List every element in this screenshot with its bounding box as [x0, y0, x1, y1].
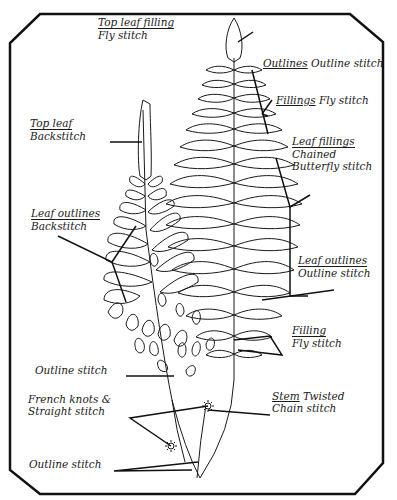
right-fern-top-leaf — [226, 18, 242, 62]
label-stitch: Fly stitch — [319, 94, 369, 106]
label-outline-stitch-bottom: Outline stitch — [29, 458, 101, 470]
label-stitch: Outline stitch — [29, 458, 101, 470]
label-title: Leaf outlines — [31, 207, 100, 219]
label-title: Stem — [272, 390, 300, 402]
label-stitch-line1: Chained — [292, 148, 336, 160]
label-title: Leaf outlines — [298, 254, 367, 266]
label-top-leaf: Top leaf Backstitch — [30, 117, 86, 142]
label-stitch-line1: Twisted — [303, 390, 345, 402]
label-stitch: Outline stitch — [35, 364, 107, 376]
label-line2: Straight stitch — [28, 405, 105, 417]
label-stitch: Backstitch — [30, 130, 86, 142]
left-fern-leaves — [104, 176, 215, 376]
label-stitch: Fly stitch — [292, 337, 342, 349]
label-fillings: Fillings Fly stitch — [276, 94, 369, 106]
label-line1: French knots & — [28, 393, 111, 405]
french-knot-icons — [165, 400, 214, 452]
label-leaf-outlines-right: Leaf outlines Outline stitch — [298, 254, 370, 279]
label-top-leaf-filling: Top leaf filling Fly stitch — [98, 16, 174, 41]
label-french-knots: French knots & Straight stitch — [28, 393, 111, 417]
label-stitch-line2: Chain stitch — [272, 402, 336, 414]
label-stitch: Backstitch — [31, 220, 87, 232]
label-leaf-fillings: Leaf fillings Chained Butterfly stitch — [292, 135, 372, 172]
label-stitch: Outline stitch — [311, 57, 383, 69]
label-leaf-outlines-left: Leaf outlines Backstitch — [31, 207, 100, 232]
right-fern-stem — [200, 58, 234, 478]
label-stitch: Outline stitch — [298, 267, 370, 279]
label-outlines: Outlines Outline stitch — [263, 57, 383, 69]
leader-filling-fly — [234, 336, 282, 355]
leader-french-knots — [130, 406, 208, 446]
label-title: Leaf fillings — [292, 135, 355, 147]
leader-outline-stitch-bottom — [114, 462, 198, 471]
label-stem: Stem Twisted Chain stitch — [272, 390, 344, 414]
label-title: Filling — [292, 324, 326, 336]
fern-stitch-diagram: Top leaf filling Fly stitch Outlines Out… — [0, 0, 397, 500]
label-title: Fillings — [276, 94, 316, 106]
label-title: Outlines — [263, 57, 308, 69]
fern-illustration — [0, 0, 397, 500]
leader-stem — [208, 410, 270, 415]
label-outline-stitch-mid: Outline stitch — [35, 364, 107, 376]
label-title: Top leaf — [30, 117, 72, 129]
label-stitch: Fly stitch — [98, 29, 148, 41]
label-stitch-line2: Butterfly stitch — [292, 160, 372, 172]
label-title: Top leaf filling — [98, 16, 174, 28]
label-filling: Filling Fly stitch — [292, 324, 342, 349]
